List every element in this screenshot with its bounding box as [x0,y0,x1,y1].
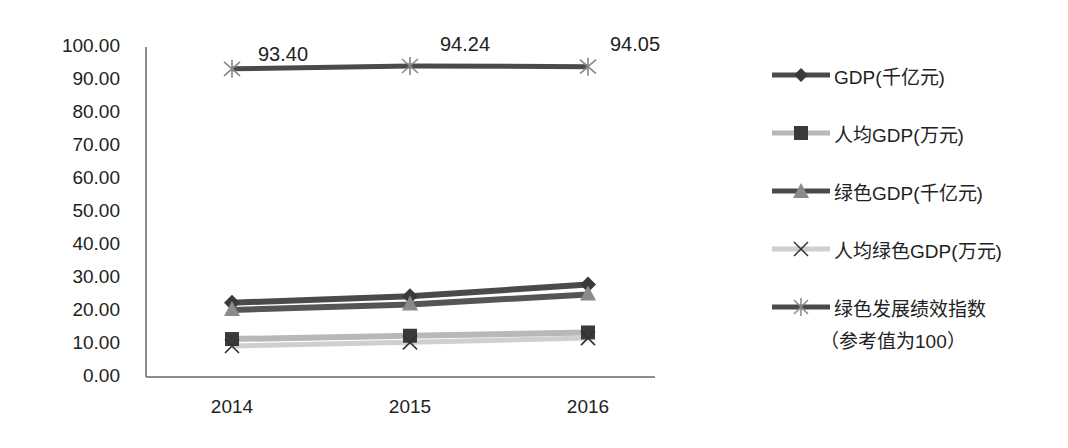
y-tick-label: 80.00 [0,101,120,123]
data-label: 94.24 [440,33,490,56]
legend-label: 人均GDP(万元) [834,120,964,147]
legend-sublabel: （参考值为100） [820,326,966,353]
square-marker-icon [770,123,832,143]
y-tick-label: 90.00 [0,68,120,90]
x-tick-label: 2014 [192,396,272,418]
legend-label: 绿色GDP(千亿元) [834,178,983,205]
legend-label: GDP(千亿元) [834,62,945,89]
y-tick-label: 60.00 [0,167,120,189]
y-tick-label: 40.00 [0,233,120,255]
legend-label: 绿色发展绩效指数 [834,294,986,321]
x-tick-label: 2016 [548,396,628,418]
x-tick-label: 2015 [370,396,450,418]
y-tick-label: 20.00 [0,299,120,321]
y-tick-label: 70.00 [0,134,120,156]
legend-item-green-gdp: 绿色GDP(千亿元) [770,176,983,206]
y-tick-label: 10.00 [0,332,120,354]
triangle-marker-icon [770,181,832,201]
star-marker-icon [770,297,832,317]
y-tick-label: 100.00 [0,35,120,57]
square-marker-icon [403,329,417,343]
data-label: 94.05 [610,33,660,56]
y-tick-label: 0.00 [0,365,120,387]
legend-item-per-capita-gdp: 人均GDP(万元) [770,118,964,148]
data-label: 93.40 [258,43,308,66]
series-layer [224,57,596,353]
legend-item-per-capita-green-gdp: 人均绿色GDP(万元) [770,234,1002,264]
square-marker-icon [225,332,239,346]
y-tick-label: 50.00 [0,200,120,222]
y-tick-label: 30.00 [0,266,120,288]
diamond-marker-icon [770,65,832,85]
x-marker-icon [770,239,832,259]
legend-item-green-index: 绿色发展绩效指数 [770,292,986,322]
legend-item-gdp: GDP(千亿元) [770,60,945,90]
legend-label: 人均绿色GDP(万元) [834,236,1002,263]
